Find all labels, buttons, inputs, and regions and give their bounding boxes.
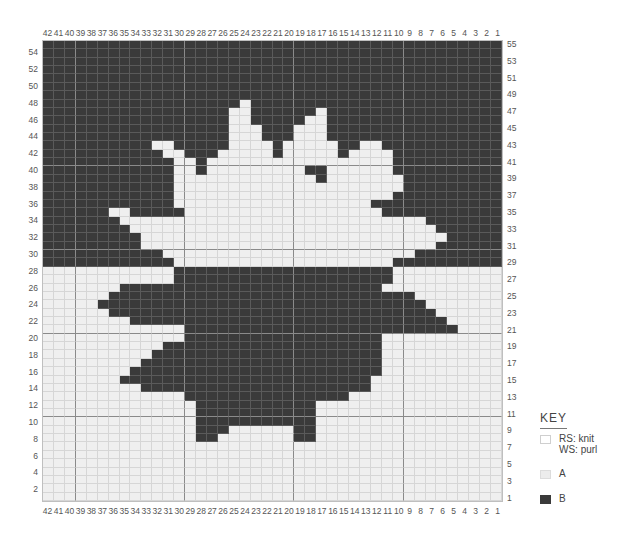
chart-cell (207, 484, 218, 492)
chart-cell (458, 284, 469, 292)
row-label: 4 (16, 468, 38, 476)
chart-cell (262, 284, 273, 292)
chart-cell (349, 125, 360, 133)
chart-cell (152, 401, 163, 409)
chart-cell (360, 484, 371, 492)
chart-cell (218, 49, 229, 57)
chart-cell (43, 250, 54, 258)
chart-cell (240, 359, 251, 367)
chart-cell (349, 409, 360, 417)
chart-cell (98, 384, 109, 392)
chart-cell (426, 166, 437, 174)
chart-cell (480, 116, 491, 124)
chart-cell (163, 225, 174, 233)
chart-cell (251, 91, 262, 99)
chart-cell (283, 409, 294, 417)
chart-cell (273, 317, 284, 325)
chart-cell (65, 325, 76, 333)
chart-cell (393, 317, 404, 325)
chart-cell (426, 91, 437, 99)
chart-cell (152, 292, 163, 300)
chart-cell (141, 91, 152, 99)
chart-cell (218, 384, 229, 392)
chart-cell (229, 426, 240, 434)
chart-cell (316, 166, 327, 174)
chart-cell (458, 468, 469, 476)
chart-cell (283, 317, 294, 325)
chart-cell (218, 108, 229, 116)
chart-cell (447, 442, 458, 450)
row-label: 24 (16, 300, 38, 308)
chart-cell (338, 284, 349, 292)
chart-cell (491, 183, 502, 191)
chart-cell (98, 468, 109, 476)
chart-cell (491, 493, 502, 501)
chart-cell (207, 258, 218, 266)
chart-cell (43, 125, 54, 133)
chart-cell (163, 384, 174, 392)
chart-cell (393, 434, 404, 442)
chart-cell (163, 242, 174, 250)
row-label: 15 (507, 376, 529, 384)
chart-cell (273, 300, 284, 308)
chart-cell (480, 108, 491, 116)
column-label: 35 (119, 28, 130, 38)
chart-cell (185, 100, 196, 108)
column-label: 41 (53, 28, 64, 38)
chart-cell (196, 284, 207, 292)
chart-cell (163, 58, 174, 66)
chart-cell (458, 359, 469, 367)
chart-cell (207, 359, 218, 367)
chart-cell (349, 192, 360, 200)
chart-cell (404, 309, 415, 317)
chart-cell (316, 434, 327, 442)
chart-cell (174, 442, 185, 450)
chart-cell (54, 275, 65, 283)
chart-cell (174, 91, 185, 99)
chart-cell (415, 409, 426, 417)
chart-cell (316, 317, 327, 325)
chart-cell (305, 258, 316, 266)
chart-cell (436, 208, 447, 216)
chart-cell (262, 233, 273, 241)
chart-cell (76, 233, 87, 241)
chart-cell (273, 41, 284, 49)
chart-cell (393, 217, 404, 225)
chart-cell (218, 376, 229, 384)
chart-cell (120, 300, 131, 308)
chart-cell (152, 200, 163, 208)
chart-cell (360, 476, 371, 484)
chart-cell (426, 192, 437, 200)
chart-cell (54, 284, 65, 292)
chart-cell (294, 158, 305, 166)
chart-cell (436, 284, 447, 292)
chart-cell (415, 233, 426, 241)
chart-cell (327, 325, 338, 333)
chart-cell (76, 426, 87, 434)
chart-cell (382, 284, 393, 292)
chart-cell (87, 334, 98, 342)
chart-cell (338, 392, 349, 400)
chart-cell (130, 350, 141, 358)
chart-cell (404, 58, 415, 66)
chart-cell (480, 83, 491, 91)
chart-cell (240, 141, 251, 149)
row-label: 10 (16, 418, 38, 426)
chart-cell (404, 41, 415, 49)
chart-cell (360, 359, 371, 367)
chart-cell (294, 284, 305, 292)
chart-cell (393, 292, 404, 300)
chart-cell (294, 359, 305, 367)
chart-cell (152, 367, 163, 375)
chart-cell (207, 376, 218, 384)
chart-cell (65, 392, 76, 400)
chart-cell (152, 58, 163, 66)
chart-cell (141, 384, 152, 392)
column-label: 38 (86, 28, 97, 38)
chart-cell (480, 158, 491, 166)
chart-cell (152, 468, 163, 476)
chart-cell (152, 49, 163, 57)
chart-cell (185, 367, 196, 375)
chart-cell (185, 493, 196, 501)
row-label: 45 (507, 124, 529, 132)
